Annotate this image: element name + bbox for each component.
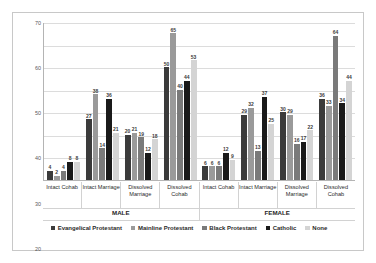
bar-slot: 50	[164, 23, 170, 180]
bar-slot: 2	[54, 23, 60, 180]
bar-slot: 14	[99, 23, 105, 180]
legend-item[interactable]: Catholic	[266, 225, 297, 231]
bar-value-label: 40	[177, 84, 183, 89]
bar: 33	[326, 106, 332, 180]
bar: 44	[184, 81, 190, 180]
bar: 29	[287, 115, 293, 180]
bar-value-label: 2	[55, 170, 58, 175]
bar-slot: 21	[132, 23, 138, 180]
bar-slot: 13	[255, 23, 261, 180]
bar-value-label: 22	[307, 125, 313, 130]
bar-slot: 38	[93, 23, 99, 180]
bar-value-label: 20	[125, 129, 131, 134]
category-label: Intact Marriage	[82, 182, 121, 208]
category-label: Intact Marriage	[239, 182, 278, 208]
bar: 18	[152, 139, 158, 180]
bar-slot: 9	[230, 23, 236, 180]
legend-item[interactable]: Evangelical Protestant	[51, 225, 122, 231]
legend-label: Evangelical Protestant	[58, 225, 122, 231]
bar: 19	[138, 137, 144, 180]
bar: 16	[294, 144, 300, 180]
bar: 6	[216, 166, 222, 180]
bar-slot: 65	[170, 23, 176, 180]
legend-item[interactable]: Mainline Protestant	[131, 225, 193, 231]
bar-value-label: 19	[138, 132, 144, 137]
bar: 53	[191, 60, 197, 180]
bar-slot: 21	[113, 23, 119, 180]
bar-value-label: 37	[262, 91, 268, 96]
bar-slot: 18	[152, 23, 158, 180]
bar: 8	[67, 162, 73, 180]
legend-label: Catholic	[273, 225, 297, 231]
bar-value-label: 18	[152, 134, 158, 139]
bar: 30	[280, 112, 286, 180]
bar-value-label: 44	[184, 75, 190, 80]
bar: 21	[113, 133, 119, 180]
bar-group: 2738143621	[83, 23, 122, 180]
y-axis-tick-label: 50	[35, 110, 41, 116]
bar-value-label: 38	[93, 89, 99, 94]
bar: 8	[74, 162, 80, 180]
bar-slot: 6	[216, 23, 222, 180]
category-label: Intact Cohab	[200, 182, 239, 208]
plot-area: 010203040506070 424882738143621202119121…	[43, 23, 355, 181]
bar-slot: 17	[301, 23, 307, 180]
bar: 36	[319, 99, 325, 180]
bar-value-label: 9	[231, 154, 234, 159]
legend-label: None	[312, 225, 327, 231]
bar-value-label: 36	[319, 93, 325, 98]
bar-value-label: 16	[294, 138, 300, 143]
bar: 34	[339, 103, 345, 180]
bar: 6	[202, 166, 208, 180]
bar-value-label: 12	[145, 147, 151, 152]
category-label: Dissolved Marriage	[121, 182, 160, 208]
y-axis-tick-label: 60	[35, 65, 41, 71]
bar: 29	[241, 115, 247, 180]
bar-slot: 33	[326, 23, 332, 180]
chart-container: 010203040506070 424882738143621202119121…	[0, 0, 376, 263]
bar: 36	[106, 99, 112, 180]
bar-slot: 36	[319, 23, 325, 180]
bar-value-label: 32	[248, 102, 254, 107]
y-axis-tick-label: 70	[35, 20, 41, 26]
bar-slot: 27	[86, 23, 92, 180]
bar: 50	[164, 67, 170, 180]
bar: 9	[230, 160, 236, 180]
bar-slot: 29	[287, 23, 293, 180]
bar-value-label: 27	[86, 114, 92, 119]
bar-slot: 4	[47, 23, 53, 180]
legend-swatch-icon	[305, 226, 310, 231]
bar-value-label: 17	[301, 136, 307, 141]
bar: 27	[86, 119, 92, 180]
bar-slot: 20	[125, 23, 131, 180]
bar-value-label: 29	[241, 109, 247, 114]
bar: 40	[177, 90, 183, 180]
bar-slot: 30	[280, 23, 286, 180]
legend-label: Mainline Protestant	[138, 225, 193, 231]
chart-legend: Evangelical ProtestantMainline Protestan…	[13, 225, 365, 231]
bar: 32	[248, 108, 254, 180]
bar-value-label: 36	[106, 93, 112, 98]
bar: 38	[93, 94, 99, 180]
bar-slot: 29	[241, 23, 247, 180]
bar-value-label: 65	[171, 28, 177, 33]
legend-item[interactable]: None	[305, 225, 327, 231]
bar: 13	[255, 151, 261, 180]
bar: 4	[61, 171, 67, 180]
bar-slot: 16	[294, 23, 300, 180]
legend-swatch-icon	[202, 226, 207, 231]
bar-slot: 44	[346, 23, 352, 180]
bar-value-label: 14	[100, 143, 106, 148]
bar: 37	[262, 97, 268, 181]
bar-value-label: 53	[191, 55, 197, 60]
legend-item[interactable]: Black Protestant	[202, 225, 256, 231]
bar: 12	[223, 153, 229, 180]
bar-value-label: 30	[280, 107, 286, 112]
bar-value-label: 4	[62, 165, 65, 170]
bar-value-label: 6	[218, 161, 221, 166]
bar-slot: 53	[191, 23, 197, 180]
supergroup-label: FEMALE	[200, 208, 356, 220]
bar-value-label: 8	[69, 156, 72, 161]
bar-value-label: 44	[346, 75, 352, 80]
bar-groups: 4248827381436212021191218506540445366612…	[44, 23, 355, 180]
